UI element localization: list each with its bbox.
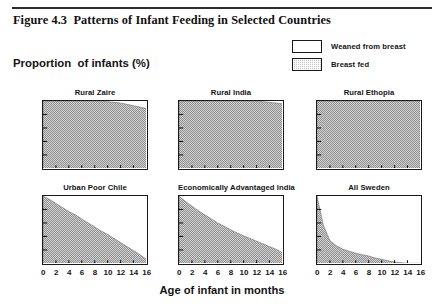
x-tick-label: 0 (315, 268, 319, 277)
legend-swatch-weaned-icon (292, 40, 322, 53)
figure-title: Figure 4.3 Patterns of Infant Feeding in… (13, 13, 331, 28)
panel-title-ethopia: Rural Ethopia (316, 88, 422, 97)
x-tick-labels-adv_india: 0246810121416 (178, 268, 284, 280)
x-tick-label: 0 (41, 268, 45, 277)
x-tick-label: 4 (203, 268, 207, 277)
x-tick-label: 12 (390, 268, 399, 277)
plot-area-zaire (42, 100, 148, 170)
plot-area-sweden (316, 195, 422, 265)
x-tick-label: 6 (354, 268, 358, 277)
x-tick-label: 16 (278, 268, 287, 277)
x-tick-label: 8 (93, 268, 97, 277)
breastfed-area (317, 101, 420, 168)
legend: Weaned from breast Breast fed (292, 39, 442, 75)
legend-item-breastfed: Breast fed (292, 57, 442, 72)
x-tick-label: 8 (229, 268, 233, 277)
x-tick-label: 10 (377, 268, 386, 277)
x-axis-title: Age of infant in months (0, 284, 444, 296)
x-tick-label: 12 (252, 268, 261, 277)
x-tick-label: 2 (328, 268, 332, 277)
x-tick-label: 10 (239, 268, 248, 277)
panel-title-chile: Urban Poor Chile (42, 183, 148, 192)
x-tick-label: 6 (80, 268, 84, 277)
x-tick-label: 6 (216, 268, 220, 277)
x-tick-labels-chile: 0246810121416 (42, 268, 148, 280)
plot-area-chile (42, 195, 148, 265)
y-axis-title: Proportion of infants (%) (13, 57, 150, 69)
header-rule (12, 7, 432, 9)
panel-title-zaire: Rural Zaire (42, 88, 148, 97)
x-tick-label: 4 (67, 268, 71, 277)
plot-area-adv_india (178, 195, 284, 265)
breastfed-area (179, 101, 282, 168)
x-tick-label: 8 (367, 268, 371, 277)
breastfed-area (179, 196, 282, 263)
panel-title-adv_india: Economically Advantaged India (178, 183, 284, 192)
x-tick-label: 0 (177, 268, 181, 277)
panel-title-sweden: All Sweden (316, 183, 422, 192)
breastfed-area (43, 101, 146, 168)
x-tick-label: 14 (129, 268, 138, 277)
x-tick-label: 16 (142, 268, 151, 277)
x-tick-label: 14 (403, 268, 412, 277)
legend-label-breastfed: Breast fed (331, 60, 369, 69)
legend-label-weaned: Weaned from breast (331, 42, 406, 51)
x-tick-labels-sweden: 0246810121416 (316, 268, 422, 280)
legend-item-weaned: Weaned from breast (292, 39, 442, 54)
breastfed-area (43, 196, 146, 263)
plot-area-india (178, 100, 284, 170)
x-tick-label: 12 (116, 268, 125, 277)
x-tick-label: 4 (341, 268, 345, 277)
x-tick-label: 2 (190, 268, 194, 277)
breastfed-area (317, 196, 420, 263)
x-tick-label: 10 (103, 268, 112, 277)
legend-swatch-breastfed-icon (292, 58, 322, 71)
x-tick-label: 14 (265, 268, 274, 277)
x-tick-label: 2 (54, 268, 58, 277)
x-tick-label: 16 (416, 268, 425, 277)
plot-area-ethopia (316, 100, 422, 170)
panel-title-india: Rural India (178, 88, 284, 97)
